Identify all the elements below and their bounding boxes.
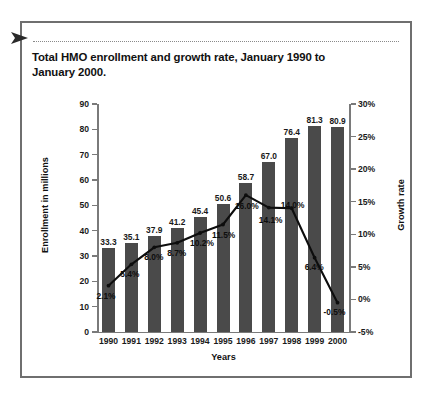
growth-rate-point <box>313 256 317 260</box>
y-axis-left-title: Enrollment in millions <box>40 105 50 305</box>
growth-rate-point <box>198 231 202 235</box>
arrow-marker-icon <box>10 28 32 48</box>
plot-area: 0102030405060708090 -5%0%5%10%15%20%25%3… <box>33 95 399 345</box>
growth-rate-point <box>244 193 248 197</box>
growth-rate-value-label: -0.5% <box>324 307 346 317</box>
growth-rate-point <box>175 241 179 245</box>
growth-rate-point <box>130 262 134 266</box>
growth-rate-value-label: 6.4% <box>305 262 324 272</box>
growth-rate-point <box>336 301 340 305</box>
growth-rate-value-label: 8.7% <box>167 248 186 258</box>
growth-rate-point <box>107 284 111 288</box>
growth-rate-value-label: 14.0% <box>281 200 305 210</box>
y-axis-right-title: Growth rate <box>396 105 406 305</box>
growth-rate-value-label: 8.0% <box>144 252 163 262</box>
growth-rate-value-label: 2.1% <box>96 291 115 301</box>
growth-rate-value-label: 10.2% <box>190 238 214 248</box>
growth-rate-point <box>267 206 271 210</box>
screenshot-root: Total HMO enrollment and growth rate, Ja… <box>0 0 434 400</box>
x-axis-tick-label: 2000 <box>318 336 358 346</box>
chart-title: Total HMO enrollment and growth rate, Ja… <box>32 50 332 80</box>
growth-rate-point <box>221 223 225 227</box>
x-axis-title: Years <box>97 352 350 362</box>
growth-rate-point <box>152 245 156 249</box>
growth-rate-value-label: 14.1% <box>259 215 283 225</box>
dotted-separator <box>33 41 399 42</box>
growth-rate-value-label: 16.0% <box>235 201 259 211</box>
growth-rate-value-label: 5.4% <box>120 269 139 279</box>
growth-rate-value-label: 11.5% <box>212 230 235 240</box>
